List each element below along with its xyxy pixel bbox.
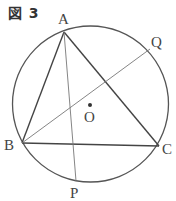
- label-A: A: [58, 11, 69, 27]
- segment-AC: [64, 32, 159, 146]
- label-O: O: [84, 109, 95, 125]
- geometry-diagram: A B C P Q O: [0, 0, 176, 201]
- label-P: P: [70, 185, 78, 201]
- segment-BQ: [22, 49, 150, 143]
- label-Q: Q: [151, 34, 162, 50]
- label-B: B: [4, 137, 14, 153]
- segment-AP: [64, 32, 76, 181]
- center-point-O: [88, 103, 92, 107]
- segment-BC: [22, 143, 159, 146]
- segment-AB: [22, 32, 64, 143]
- label-C: C: [162, 141, 172, 157]
